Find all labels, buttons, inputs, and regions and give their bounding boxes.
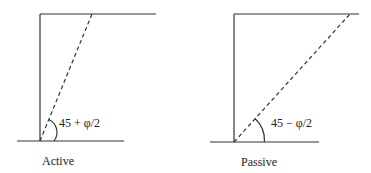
- earth-pressure-diagram: 45 + φ/2 Active 45 − φ/2 Passive: [0, 0, 371, 173]
- passive-caption: Passive: [241, 155, 277, 170]
- active-angle-label: 45 + φ/2: [59, 116, 100, 131]
- passive-angle-arc: [255, 119, 265, 143]
- diagram-drawing: [0, 0, 371, 173]
- active-caption: Active: [42, 154, 74, 169]
- passive-angle-label: 45 − φ/2: [271, 116, 312, 131]
- active-angle-arc: [49, 120, 57, 142]
